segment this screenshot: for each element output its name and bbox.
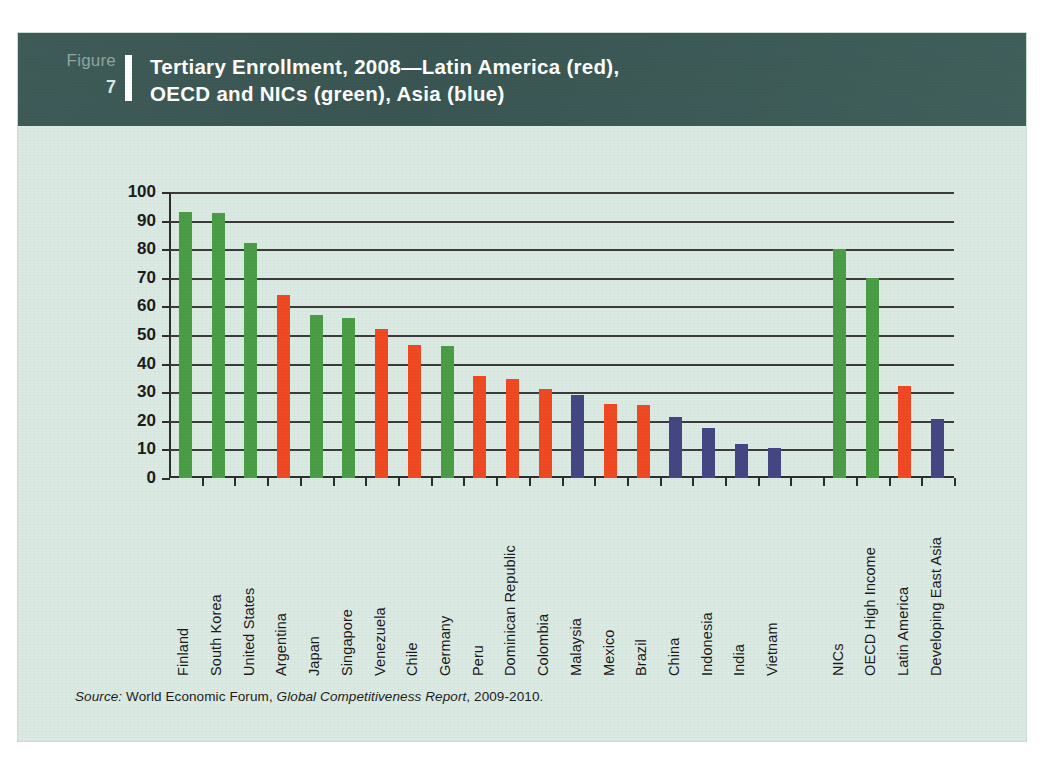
x-axis-category-label: Venezuela [372,607,388,676]
x-axis-category-label: Singapore [339,609,355,676]
bar [506,379,519,478]
x-axis-category-label: United States [241,588,257,676]
y-axis-tick [162,449,170,451]
x-axis-tick [431,478,433,486]
figure-title-line-1: Tertiary Enrollment, 2008—Latin America … [150,53,996,80]
x-axis-tick [627,478,629,486]
y-axis-tick-label: 80 [137,239,156,259]
bar [408,345,421,478]
x-axis-tick [562,478,564,486]
bar [898,386,911,478]
x-axis-tick [660,478,662,486]
source-report-title: Global Competitiveness Report [277,689,467,704]
x-axis-category-label: Argentina [273,613,289,676]
source-note: Source: World Economic Forum, Global Com… [75,689,543,704]
x-axis-tick [823,478,825,486]
source-publisher: World Economic Forum, [126,689,273,704]
bar [277,295,290,478]
x-axis-category-label: OECD High Income [862,547,878,676]
bar [179,212,192,478]
figure-title-line-2: OECD and NICs (green), Asia (blue) [150,80,996,107]
bar [866,278,879,478]
gridline [169,221,954,223]
y-axis-tick-label: 90 [137,211,156,231]
x-axis-category-label: India [731,644,747,676]
figure-number-block: Figure 7 [54,51,116,99]
y-axis-tick [162,192,170,194]
x-axis-tick [398,478,400,486]
x-axis-category-label: Finland [175,628,191,676]
y-axis-tick-label: 50 [137,325,156,345]
x-axis-tick [758,478,760,486]
source-prefix: Source: [75,689,122,704]
x-axis-tick [267,478,269,486]
x-axis-tick [300,478,302,486]
x-axis-tick [594,478,596,486]
bar [931,419,944,478]
bar [604,404,617,478]
y-axis-tick-label: 100 [128,182,156,202]
x-axis-category-label: Vietnam [764,622,780,676]
gridline [169,192,954,194]
x-axis-category-label: Brazil [633,639,649,676]
x-axis-category-label: Indonesia [699,612,715,676]
x-axis-category-label: Malaysia [568,618,584,676]
y-axis-tick-label: 70 [137,268,156,288]
y-axis-tick [162,306,170,308]
bar [375,329,388,478]
bar [473,376,486,478]
x-axis-category-label: Japan [306,636,322,676]
bar [244,243,257,478]
x-axis-tick [954,478,956,486]
bar [539,389,552,478]
y-axis-tick-label: 60 [137,296,156,316]
header-divider-rule [125,55,132,101]
bar [310,315,323,478]
x-axis-category-label: NICs [830,643,846,676]
x-axis-category-label: China [666,638,682,676]
x-axis-category-label: Chile [404,642,420,676]
x-axis-tick [856,478,858,486]
x-axis-tick [365,478,367,486]
y-axis-tick [162,335,170,337]
x-axis-category-label: Developing East Asia [928,537,944,676]
bar [669,417,682,478]
y-axis-tick [162,421,170,423]
bar [571,395,584,478]
figure-label: Figure [54,51,116,71]
x-axis-category-label: South Korea [208,594,224,676]
x-axis-tick [921,478,923,486]
x-axis-tick [463,478,465,486]
bar [702,428,715,478]
x-axis-tick [529,478,531,486]
y-axis-tick [162,478,170,480]
x-axis-category-label: Germany [437,616,453,676]
x-axis-tick [889,478,891,486]
source-years: , 2009-2010. [466,689,543,704]
bar [212,213,225,478]
bar [735,444,748,478]
y-axis-tick-label: 20 [137,411,156,431]
bar-chart-plot: 0102030405060708090100 [169,192,954,478]
bar [342,318,355,478]
y-axis-tick [162,364,170,366]
x-axis-tick [692,478,694,486]
x-axis-category-label: Mexico [601,629,617,676]
chart-region: 0102030405060708090100 FinlandSouth Kore… [18,126,1026,741]
bar [768,448,781,478]
x-axis-tick [333,478,335,486]
x-axis-category-label: Colombia [535,614,551,676]
x-axis-category-label: Dominican Republic [502,545,518,676]
x-axis-tick [725,478,727,486]
y-axis-tick [162,221,170,223]
x-axis-category-labels: FinlandSouth KoreaUnited StatesArgentina… [169,486,954,676]
x-axis-tick [234,478,236,486]
y-axis-tick-label: 0 [147,468,156,488]
bar [833,249,846,478]
x-axis-tick [790,478,792,486]
figure-title: Tertiary Enrollment, 2008—Latin America … [150,53,996,107]
bar [441,346,454,478]
x-axis-category-label: Peru [470,645,486,676]
y-axis-tick-label: 10 [137,439,156,459]
figure-number: 7 [54,75,116,99]
